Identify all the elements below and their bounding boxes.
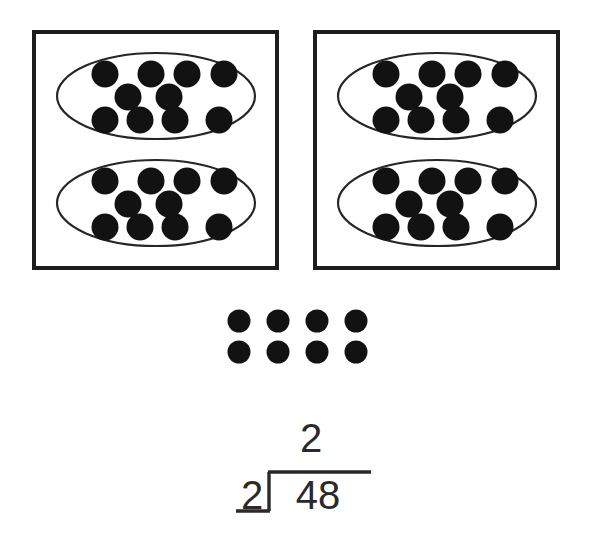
counter-dot [211, 61, 238, 88]
counter-dot [115, 84, 142, 111]
counter-dot [127, 214, 154, 241]
counter-dot [174, 168, 201, 195]
loose-counter-dot [345, 341, 368, 364]
counter-dot [156, 191, 183, 218]
counter-dot [138, 61, 165, 88]
counter-dot [443, 214, 470, 241]
counter-dot [437, 84, 464, 111]
counter-dot [455, 168, 482, 195]
counter-dot [396, 84, 423, 111]
counter-dot [487, 214, 514, 241]
counter-dot [373, 61, 400, 88]
counter-dot [408, 107, 435, 134]
counter-dot [138, 168, 165, 195]
dividend-value: 48 [296, 473, 341, 517]
quotient-value: 2 [300, 416, 322, 460]
counter-dot [492, 61, 519, 88]
counter-dot [162, 107, 189, 134]
loose-counter-grid [228, 310, 368, 364]
counter-dot [156, 84, 183, 111]
counter-dot [206, 107, 233, 134]
counter-dot [373, 214, 400, 241]
counter-dot [437, 191, 464, 218]
long-division-problem: 2248 [236, 416, 371, 517]
counter-dot [92, 168, 119, 195]
counter-dot [174, 61, 201, 88]
counter-dot [492, 168, 519, 195]
counter-dot [487, 107, 514, 134]
counter-dot [115, 191, 142, 218]
counter-dot [92, 214, 119, 241]
loose-counter-dot [306, 341, 329, 364]
counter-dot [92, 107, 119, 134]
loose-counter-dot [267, 341, 290, 364]
counter-dot [443, 107, 470, 134]
counter-dot [455, 61, 482, 88]
loose-counter-dot [345, 310, 368, 333]
counter-dot [92, 61, 119, 88]
counter-dot [211, 168, 238, 195]
loose-counter-dot [228, 310, 251, 333]
division-model-illustration: 2248 [0, 0, 596, 549]
counter-dot [419, 168, 446, 195]
loose-counter-dot [228, 341, 251, 364]
right-box [315, 32, 558, 268]
counter-dot [162, 214, 189, 241]
loose-counter-dot [306, 310, 329, 333]
loose-counter-dot [267, 310, 290, 333]
counter-dot [396, 191, 423, 218]
scene-canvas: 2248 [0, 0, 596, 549]
divisor-value: 2 [241, 473, 263, 517]
counter-dot [206, 214, 233, 241]
counter-dot [127, 107, 154, 134]
counter-dot [408, 214, 435, 241]
counter-dot [419, 61, 446, 88]
counter-dot [373, 168, 400, 195]
left-box [34, 32, 277, 268]
counter-dot [373, 107, 400, 134]
